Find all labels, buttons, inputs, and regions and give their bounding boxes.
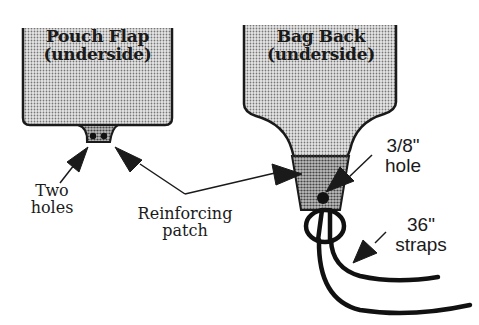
two-holes-label: Two holes bbox=[22, 183, 82, 217]
straps-line2: straps bbox=[386, 235, 456, 255]
hole-3-8 bbox=[317, 192, 329, 204]
hole-size-label: 3/8" hole bbox=[378, 136, 428, 176]
pouch-flap-title-line2: (underside) bbox=[30, 46, 165, 64]
reinforcing-patch-label: Reinforcing patch bbox=[130, 206, 240, 240]
pouch-flap-patch bbox=[78, 125, 118, 142]
two-holes-line2: holes bbox=[22, 200, 82, 217]
straps-label: 36" straps bbox=[386, 215, 456, 255]
hole-left bbox=[90, 133, 96, 139]
straps-line1: 36" bbox=[386, 215, 456, 235]
bag-back-title-line2: (underside) bbox=[252, 46, 390, 64]
hole-size-line2: hole bbox=[378, 156, 428, 176]
bag-back-title: Bag Back (underside) bbox=[252, 28, 390, 64]
reinforcing-patch-line2: patch bbox=[130, 223, 240, 240]
pouch-flap-title: Pouch Flap (underside) bbox=[30, 28, 165, 64]
hole-right bbox=[101, 133, 107, 139]
hole-size-line1: 3/8" bbox=[378, 136, 428, 156]
